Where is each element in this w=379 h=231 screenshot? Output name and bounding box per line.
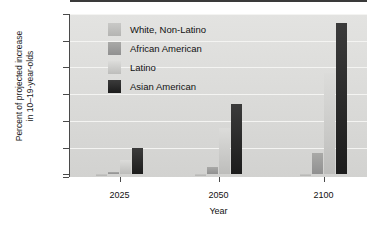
y-tick-mark bbox=[63, 121, 69, 122]
y-axis-label: Percent of projected increase in 10–19-y… bbox=[14, 1, 36, 171]
bar bbox=[195, 174, 207, 176]
bar bbox=[108, 172, 120, 175]
legend-label: White, Non-Latino bbox=[130, 24, 206, 35]
y-tick-mark bbox=[63, 14, 69, 15]
y-tick-mark bbox=[63, 174, 69, 175]
bar bbox=[207, 167, 219, 174]
legend-item: Asian American bbox=[108, 77, 206, 96]
bar bbox=[336, 23, 348, 174]
x-tick-mark bbox=[324, 177, 325, 182]
legend-item: Latino bbox=[108, 58, 206, 77]
bar bbox=[300, 174, 312, 176]
x-tick-label: 2100 bbox=[294, 190, 354, 200]
legend-label: African American bbox=[130, 43, 202, 54]
legend-swatch bbox=[108, 80, 121, 93]
gridline bbox=[70, 14, 367, 15]
y-tick-mark bbox=[63, 41, 69, 42]
x-tick-label: 2050 bbox=[189, 190, 249, 200]
legend-label: Asian American bbox=[130, 81, 196, 92]
x-tick-label: 2025 bbox=[90, 190, 150, 200]
bar bbox=[120, 160, 132, 175]
y-tick-mark bbox=[63, 148, 69, 149]
x-axis-label: Year bbox=[70, 206, 367, 216]
legend-swatch bbox=[108, 42, 121, 55]
legend-swatch bbox=[108, 61, 121, 74]
bar bbox=[324, 73, 336, 174]
x-tick-mark bbox=[120, 177, 121, 182]
x-axis-line bbox=[70, 0, 367, 2]
bar bbox=[132, 148, 144, 175]
bar bbox=[219, 128, 231, 175]
y-axis-line bbox=[69, 14, 70, 177]
bar bbox=[312, 153, 324, 174]
y-tick-mark bbox=[63, 94, 69, 95]
y-tick-mark bbox=[63, 177, 69, 178]
legend-item: White, Non-Latino bbox=[108, 20, 206, 39]
gridline bbox=[70, 121, 367, 122]
x-tick-mark bbox=[219, 177, 220, 182]
legend-item: African American bbox=[108, 39, 206, 58]
bar bbox=[231, 104, 243, 175]
legend-swatch bbox=[108, 23, 121, 36]
y-tick-mark bbox=[63, 67, 69, 68]
bar bbox=[96, 174, 108, 176]
chart-legend: White, Non-LatinoAfrican AmericanLatinoA… bbox=[108, 20, 206, 96]
chart-figure: Percent of projected increase in 10–19-y… bbox=[0, 0, 379, 231]
legend-label: Latino bbox=[130, 62, 156, 73]
